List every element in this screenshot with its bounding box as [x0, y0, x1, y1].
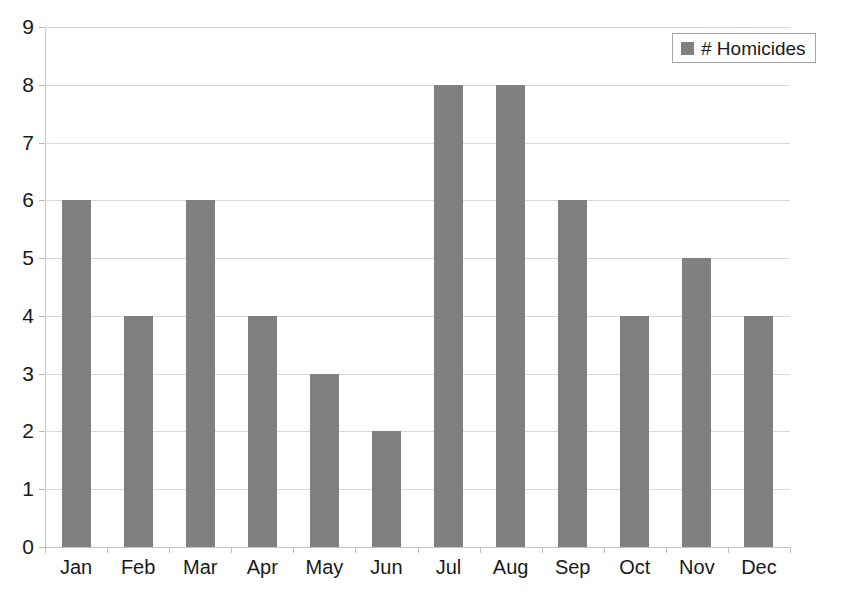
x-axis-label-mar: Mar: [168, 556, 232, 579]
x-tick-mark-11: [728, 547, 729, 553]
x-axis-label-apr: Apr: [230, 556, 294, 579]
bar-mar: [186, 200, 215, 547]
legend-series-label: # Homicides: [701, 39, 806, 58]
x-tick-mark-8: [542, 547, 543, 553]
y-axis-label-6: 6: [4, 189, 34, 210]
x-axis-label-jan: Jan: [44, 556, 108, 579]
x-axis-label-sep: Sep: [541, 556, 605, 579]
y-axis-tick-labels: 9876543210: [0, 0, 34, 597]
y-axis-label-8: 8: [4, 74, 34, 95]
gridline-6: [45, 200, 790, 201]
y-axis-label-3: 3: [4, 363, 34, 384]
y-axis-label-2: 2: [4, 420, 34, 441]
gridline-5: [45, 258, 790, 259]
x-tick-mark-9: [604, 547, 605, 553]
gridline-8: [45, 85, 790, 86]
x-tick-mark-4: [293, 547, 294, 553]
bar-may: [310, 374, 339, 547]
x-tick-mark-0: [45, 547, 46, 553]
bar-jan: [62, 200, 91, 547]
bar-aug: [496, 85, 525, 547]
gridline-4: [45, 316, 790, 317]
x-tick-mark-1: [107, 547, 108, 553]
x-axis-label-jun: Jun: [354, 556, 418, 579]
y-axis-label-9: 9: [4, 16, 34, 37]
x-axis-label-nov: Nov: [665, 556, 729, 579]
chart-legend: # Homicides: [672, 33, 816, 63]
bar-apr: [248, 316, 277, 547]
bar-dec: [744, 316, 773, 547]
x-axis-label-oct: Oct: [603, 556, 667, 579]
y-tick-mark-7: [39, 143, 45, 144]
plot-area: [45, 27, 790, 547]
x-axis-label-aug: Aug: [479, 556, 543, 579]
y-axis-label-0: 0: [4, 536, 34, 557]
gridline-3: [45, 374, 790, 375]
bar-jun: [372, 431, 401, 547]
y-axis-label-4: 4: [4, 305, 34, 326]
bar-chart: 9876543210 # Homicides JanFebMarAprMayJu…: [0, 0, 846, 597]
x-tick-mark-10: [666, 547, 667, 553]
y-tick-mark-8: [39, 85, 45, 86]
y-tick-mark-6: [39, 200, 45, 201]
legend-square-marker: [681, 42, 694, 55]
bar-oct: [620, 316, 649, 547]
x-tick-mark-3: [231, 547, 232, 553]
x-tick-mark-2: [169, 547, 170, 553]
x-axis-label-may: May: [292, 556, 356, 579]
y-axis-label-7: 7: [4, 132, 34, 153]
bar-nov: [682, 258, 711, 547]
y-axis-label-5: 5: [4, 247, 34, 268]
x-tick-mark-5: [355, 547, 356, 553]
y-tick-mark-5: [39, 258, 45, 259]
x-tick-mark-end: [790, 547, 791, 553]
bar-sep: [558, 200, 587, 547]
x-axis-label-feb: Feb: [106, 556, 170, 579]
x-tick-mark-6: [418, 547, 419, 553]
y-tick-mark-3: [39, 374, 45, 375]
y-tick-mark-9: [39, 27, 45, 28]
gridline-2: [45, 431, 790, 432]
y-tick-mark-2: [39, 431, 45, 432]
gridline-9: [45, 27, 790, 28]
y-tick-mark-1: [39, 489, 45, 490]
x-tick-mark-7: [480, 547, 481, 553]
x-axis-label-jul: Jul: [417, 556, 481, 579]
bar-jul: [434, 85, 463, 547]
y-tick-mark-4: [39, 316, 45, 317]
y-axis-label-1: 1: [4, 478, 34, 499]
x-axis-label-dec: Dec: [727, 556, 791, 579]
bar-feb: [124, 316, 153, 547]
gridline-1: [45, 489, 790, 490]
gridline-7: [45, 143, 790, 144]
